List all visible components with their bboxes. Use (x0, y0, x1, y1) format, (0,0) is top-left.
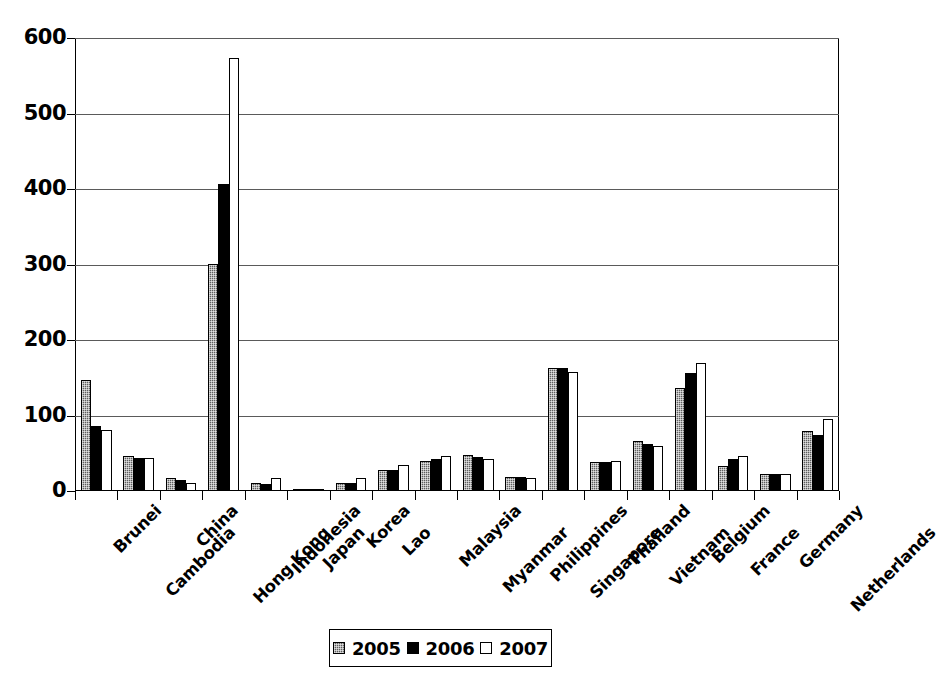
x-tick-mark (457, 491, 458, 500)
x-tick-mark (754, 491, 755, 500)
bar-germany-2007 (780, 474, 790, 491)
bar-china-2005 (166, 478, 176, 491)
x-axis-label-germany: Germany (795, 501, 867, 573)
bar-philippines-2006 (516, 477, 526, 491)
bar-japan-2007 (314, 489, 324, 491)
bar-cambodia-2007 (144, 458, 154, 491)
bar-france-2006 (728, 459, 738, 491)
bar-germany-2005 (760, 474, 770, 491)
y-tick-label: 600 (0, 27, 66, 48)
bar-vietnam-2005 (633, 441, 643, 491)
bar-indonesia-2006 (261, 484, 271, 491)
bar-thailand-2005 (590, 462, 600, 491)
bar-myanmar-2005 (463, 455, 473, 491)
bar-korea-2007 (356, 478, 366, 491)
x-tick-mark (287, 491, 288, 500)
x-tick-mark (117, 491, 118, 500)
x-tick-mark (542, 491, 543, 500)
gridline (75, 114, 839, 115)
bar-malaysia-2005 (420, 461, 430, 491)
bar-france-2005 (718, 466, 728, 491)
bar-belgium-2006 (685, 373, 695, 491)
plot-area (75, 38, 839, 491)
bar-vietnam-2006 (643, 444, 653, 491)
gridline (75, 38, 839, 39)
y-tick-label: 200 (0, 329, 66, 350)
x-tick-mark (797, 491, 798, 500)
bar-malaysia-2006 (431, 459, 441, 491)
bar-hong-kong-2005 (208, 264, 218, 491)
legend-swatch-2006-icon (407, 642, 419, 654)
bar-germany-2006 (770, 474, 780, 491)
x-tick-mark (415, 491, 416, 500)
bar-cambodia-2006 (134, 458, 144, 491)
x-axis-label-netherlands: Netherlands (847, 523, 939, 616)
gridline (75, 189, 839, 190)
x-tick-mark (627, 491, 628, 500)
bar-group (208, 38, 239, 491)
x-tick-mark (584, 491, 585, 500)
bar-thailand-2006 (600, 462, 610, 491)
x-axis-label-malaysia: Malaysia (455, 501, 525, 571)
legend-swatch-2005-icon (333, 642, 345, 654)
gridline (75, 416, 839, 417)
bar-netherlands-2005 (802, 431, 812, 491)
bar-belgium-2005 (675, 388, 685, 491)
x-tick-mark (330, 491, 331, 500)
bar-thailand-2007 (611, 461, 621, 491)
bar-china-2007 (186, 483, 196, 491)
legend-item-2006[interactable]: 2006 (407, 638, 475, 659)
y-tick-label: 300 (0, 254, 66, 275)
bar-china-2006 (176, 480, 186, 491)
bar-brunei-2007 (101, 430, 111, 491)
x-tick-mark (245, 491, 246, 500)
bar-netherlands-2007 (823, 419, 833, 491)
x-tick-mark (202, 491, 203, 500)
legend-label-2005: 2005 (352, 638, 401, 659)
bar-indonesia-2007 (271, 478, 281, 491)
bar-philippines-2007 (526, 478, 536, 491)
bar-vietnam-2007 (653, 446, 663, 491)
bar-lao-2007 (398, 465, 408, 491)
x-axis-label-brunei: Brunei (110, 501, 166, 557)
bar-indonesia-2005 (251, 483, 261, 491)
bar-netherlands-2006 (813, 435, 823, 491)
chart-legend: 200520062007 (329, 629, 552, 667)
x-tick-mark (712, 491, 713, 500)
x-tick-mark (669, 491, 670, 500)
bar-france-2007 (738, 456, 748, 491)
x-axis-label-lao: Lao (399, 523, 435, 559)
x-tick-mark (499, 491, 500, 500)
bar-myanmar-2007 (483, 459, 493, 491)
legend-swatch-2007-icon (480, 642, 492, 654)
bar-japan-2005 (293, 489, 303, 491)
y-tick-label: 0 (0, 480, 66, 501)
legend-label-2006: 2006 (426, 638, 475, 659)
legend-label-2007: 2007 (499, 638, 548, 659)
y-tick-label: 500 (0, 103, 66, 124)
legend-item-2007[interactable]: 2007 (480, 638, 548, 659)
y-tick-label: 400 (0, 178, 66, 199)
bar-singapore-2007 (568, 372, 578, 491)
bar-myanmar-2006 (473, 457, 483, 491)
bar-lao-2005 (378, 470, 388, 491)
bar-brunei-2005 (81, 380, 91, 491)
bar-singapore-2005 (548, 368, 558, 491)
bar-korea-2005 (336, 483, 346, 491)
bar-hong-kong-2007 (229, 58, 239, 491)
bar-hong-kong-2006 (218, 184, 228, 491)
bar-belgium-2007 (696, 363, 706, 491)
bar-lao-2006 (388, 470, 398, 491)
bar-brunei-2006 (91, 426, 101, 491)
bar-korea-2006 (346, 483, 356, 491)
bar-malaysia-2007 (441, 456, 451, 491)
x-tick-mark (75, 491, 76, 500)
legend-item-2005[interactable]: 2005 (333, 638, 401, 659)
gridline (75, 340, 839, 341)
bar-singapore-2006 (558, 368, 568, 491)
x-tick-mark (839, 491, 840, 500)
bar-japan-2006 (303, 489, 313, 491)
bar-philippines-2005 (505, 477, 515, 491)
bar-cambodia-2005 (123, 456, 133, 491)
